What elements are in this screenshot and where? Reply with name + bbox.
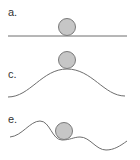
ball-icon: [59, 19, 76, 36]
ball-icon: [56, 123, 73, 140]
panel-e: [10, 121, 127, 150]
hill-surface-curve: [8, 69, 125, 97]
panel-a: [8, 19, 127, 37]
panel-c: [8, 52, 125, 98]
ball-icon: [59, 52, 76, 69]
equilibrium-diagram: [0, 0, 140, 160]
